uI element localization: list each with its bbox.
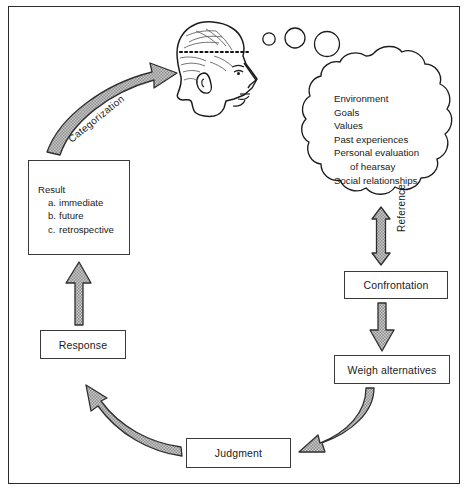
result-item-label: immediate [59, 197, 103, 208]
cloud-line: Past experiences [334, 133, 458, 147]
node-confrontation-label: Confrontation [364, 279, 429, 291]
cloud-line: Goals [334, 106, 458, 120]
result-title: Result [38, 183, 129, 196]
diagram-canvas: Environment Goals Values Past experience… [0, 0, 470, 495]
arrow-label-reference: Reference [396, 184, 407, 232]
cloud-line: Values [334, 119, 458, 133]
result-item-marker: c. [48, 223, 59, 236]
result-box: Result a.immediate b.future c.retrospect… [28, 160, 130, 255]
node-response-label: Response [59, 339, 107, 351]
result-item: c.retrospective [48, 223, 129, 236]
result-item-label: future [59, 210, 84, 221]
result-item-marker: b. [48, 209, 59, 222]
result-item-list: a.immediate b.future c.retrospective [38, 196, 129, 236]
result-item-marker: a. [48, 196, 59, 209]
cloud-line: Personal evaluation [334, 146, 458, 160]
node-judgment: Judgment [186, 438, 291, 468]
result-item: b.future [48, 209, 129, 222]
node-weigh-alternatives: Weigh alternatives [334, 355, 450, 384]
result-item: a.immediate [48, 196, 129, 209]
node-judgment-label: Judgment [215, 447, 262, 459]
result-item-label: retrospective [59, 224, 114, 235]
cloud-content-list: Environment Goals Values Past experience… [334, 92, 458, 187]
cloud-line: of hearsay [334, 160, 458, 174]
cloud-line: Environment [334, 92, 458, 106]
node-confrontation: Confrontation [344, 271, 448, 299]
node-response: Response [40, 330, 126, 359]
node-weigh-alternatives-label: Weigh alternatives [348, 364, 437, 376]
